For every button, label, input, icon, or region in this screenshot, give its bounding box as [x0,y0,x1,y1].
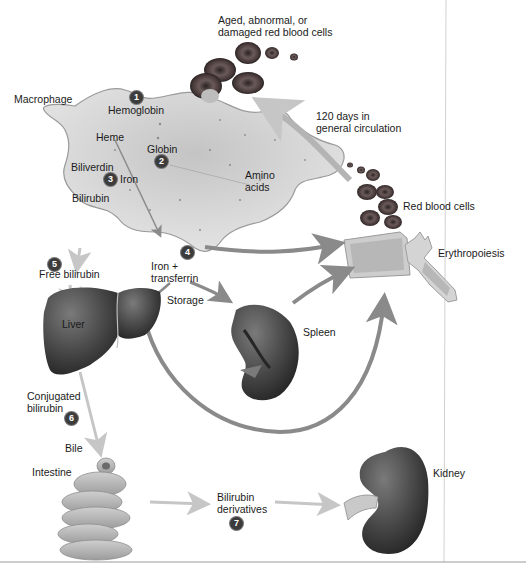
label-storage: Storage [167,294,204,306]
label-bilirubin: Bilirubin [72,192,109,204]
kidney-illustration [344,447,428,554]
step-badge-7: 7 [230,517,243,530]
label-biliverdin: Biliverdin [71,161,114,173]
step-badge-4: 4 [181,246,194,259]
derivatives-to-kidney-arrow [275,502,335,505]
step-badge-3: 3 [104,173,117,186]
label-iron: Iron [120,173,138,185]
intestine-to-derivatives-arrow [150,502,205,504]
label-spleen: Spleen [303,326,336,338]
label-free-bilirubin: Free bilirubin [39,268,100,280]
label-bile: Bile [65,442,83,454]
iron-to-bone-arrow [205,244,338,252]
step-badge-2: 2 [155,155,168,168]
label-macrophage: Macrophage [14,93,72,105]
step-badge-6: 6 [65,412,78,425]
label-hemoglobin: Hemoglobin [108,104,164,116]
label-heme: Heme [96,131,124,143]
diagram-canvas: Aged, abnormal, or damaged red blood cel… [0,0,526,574]
bilirubin-down-arrow [77,248,80,268]
aged-red-blood-cells [190,42,298,103]
label-liver: Liver [62,318,85,330]
spleen-to-bone-arrow [293,270,348,303]
label-kidney: Kidney [433,467,465,479]
label-globin: Globin [147,143,177,155]
step-badge-1: 1 [130,91,143,104]
bone-marrow-illustration [344,232,457,302]
label-intestine: Intestine [32,466,72,478]
label-circulation: 120 days in general circulation [316,110,401,134]
liver-illustration [43,288,161,375]
label-aged-rbc: Aged, abnormal, or damaged red blood cel… [218,14,332,38]
diagram-artwork [0,0,526,574]
label-bilirubin-derivatives: Bilirubin derivatives [217,491,267,515]
label-red-blood-cells: Red blood cells [403,200,475,212]
label-erythropoiesis: Erythropoiesis [438,247,505,259]
liver-to-intestine-arrow [80,372,100,452]
label-amino-acids: Amino acids [245,169,275,193]
spleen-illustration [231,305,299,401]
red-blood-cells-cluster [347,163,402,230]
label-conjugated-bilirubin: Conjugated bilirubin [27,390,81,414]
label-iron-transferrin: Iron + transferrin [151,260,198,284]
